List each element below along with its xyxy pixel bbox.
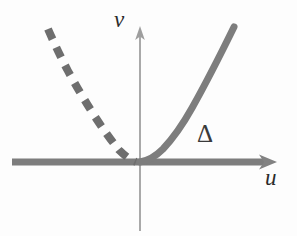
plot-svg xyxy=(0,0,297,236)
y-axis-group xyxy=(135,26,145,231)
y-axis-label: v xyxy=(114,8,124,31)
figure-canvas: v u Δ xyxy=(0,0,297,236)
dashed-branch-curve xyxy=(48,29,136,162)
x-axis-label: u xyxy=(265,166,277,189)
delta-annotation: Δ xyxy=(197,121,213,146)
solid-branch-curve xyxy=(140,27,234,162)
